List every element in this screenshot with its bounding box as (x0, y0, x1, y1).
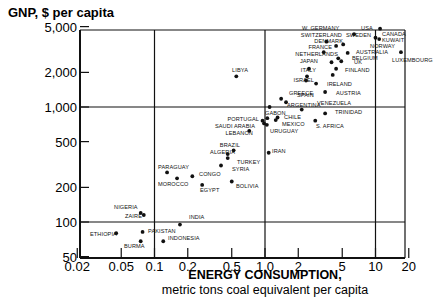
point-label: ALGERIA (210, 149, 235, 155)
point-marker (374, 36, 378, 40)
data-point: ARGENTINA (268, 102, 321, 109)
point-label: GABON (265, 110, 286, 116)
point-marker (175, 176, 179, 180)
point-label: FINLAND (345, 67, 370, 73)
point-marker (323, 90, 327, 94)
data-point: PAKISTAN (141, 228, 176, 234)
point-label: SAUDI ARABIA (215, 123, 255, 129)
point-label: LIBYA (232, 67, 248, 73)
x-tick-label: 20 (402, 259, 416, 274)
y-tick-label: 200 (55, 180, 77, 195)
point-marker (346, 51, 350, 55)
point-marker (377, 37, 381, 41)
point-label: NETHERLANDS (295, 51, 338, 57)
point-label: W. GERMANY (302, 25, 340, 31)
x-tick-label: 0.1 (145, 259, 163, 274)
point-label: BOLIVIA (236, 183, 259, 189)
point-label: JAPAN (300, 58, 318, 64)
point-marker (165, 170, 169, 174)
point-label: SWEDEN (346, 32, 371, 38)
point-label: SYRIA (232, 166, 249, 172)
point-marker (267, 151, 271, 155)
point-label: IRELAND (327, 81, 352, 87)
y-axis-title: GNP, $ per capita (8, 5, 115, 20)
x-tick-label: 0.05 (109, 259, 134, 274)
y-tick-label: 2,000 (44, 65, 77, 80)
data-point: S. AFRICA (313, 119, 344, 129)
point-label: ISRAEL (294, 77, 315, 83)
point-label: UK (354, 59, 362, 65)
point-marker (142, 213, 146, 217)
data-point: SAUDI ARABIA (215, 122, 266, 129)
data-point: LUXEMBOURG (392, 50, 433, 63)
point-label: ETHIOPIA (90, 231, 117, 237)
point-marker (314, 82, 318, 86)
data-point: EGYPT (200, 183, 220, 193)
data-point: PORTUGAL (228, 116, 265, 123)
data-point: INDIA (178, 214, 205, 226)
point-label: LUXEMBOURG (392, 57, 433, 63)
data-point: ISRAEL (294, 77, 315, 83)
x-axis-subtitle: metric tons coal equivalent per capita (162, 283, 368, 297)
point-label: BRAZIL (220, 142, 240, 148)
data-point: MOROCCO (158, 176, 189, 187)
point-label: USA (361, 25, 373, 31)
point-marker (161, 239, 165, 243)
point-marker (190, 174, 194, 178)
point-label: TURKEY (237, 159, 260, 165)
point-marker (219, 164, 223, 168)
data-point: BURMA (124, 239, 145, 249)
data-point: LIBYA (232, 67, 248, 78)
point-label: AUSTRIA (336, 90, 361, 96)
point-marker (265, 116, 269, 120)
point-label: INDONESIA (168, 235, 200, 241)
data-point: LEBANON (226, 129, 253, 136)
point-label: ARGENTINA (287, 102, 321, 108)
point-label: S. AFRICA (316, 123, 344, 129)
point-label: CHILE (284, 114, 301, 120)
point-label: MEXICO (282, 121, 305, 127)
data-point: ALGERIA (210, 149, 235, 156)
point-label: INDIA (189, 214, 205, 220)
data-point: PARAGUAY (158, 164, 189, 174)
point-marker (141, 230, 145, 234)
y-tick-label: 1,000 (44, 100, 77, 115)
data-point: CONGO (190, 171, 221, 178)
data-point: TURKEY (226, 156, 261, 165)
point-marker (226, 156, 230, 160)
point-marker (334, 44, 338, 48)
point-marker (265, 123, 269, 127)
point-label: PORTUGAL (228, 116, 259, 122)
y-tick-label: 5,000 (44, 20, 77, 35)
point-marker (230, 180, 234, 184)
data-point: INDONESIA (161, 235, 199, 243)
point-marker (378, 27, 382, 31)
x-tick-label: 0.02 (65, 259, 90, 274)
point-label: PAKISTAN (148, 228, 176, 234)
point-label: NIGERIA (114, 204, 138, 210)
scatter-chart: GNP, $ per capita 501002005001,0002,0005… (0, 0, 445, 307)
y-tick-label: 500 (55, 135, 77, 150)
point-marker (331, 73, 335, 77)
point-label: BURMA (124, 243, 145, 249)
point-label: FRANCE (308, 44, 332, 50)
point-marker (399, 50, 403, 54)
point-label: SPAIN (297, 92, 314, 98)
point-label: CONGO (199, 171, 221, 177)
point-marker (323, 111, 327, 115)
point-label: MOROCCO (158, 181, 189, 187)
point-marker (300, 108, 304, 112)
point-label: ITALY (301, 67, 316, 73)
point-label: PARAGUAY (158, 164, 189, 170)
point-marker (178, 223, 182, 227)
point-label: IRAN (272, 148, 286, 154)
point-label: URUGUAY (270, 128, 298, 134)
data-point: ZAIRE (125, 213, 146, 219)
point-label: ZAIRE (125, 213, 142, 219)
data-point: SWEDEN (346, 32, 371, 38)
data-point: BOLIVIA (230, 180, 259, 189)
point-marker (234, 74, 238, 78)
data-points: USACANADAKUWAITLUXEMBOURGW. GERMANYSWITZ… (90, 25, 433, 249)
data-point: IRELAND (314, 81, 352, 87)
data-point: AUSTRIA (323, 90, 361, 96)
